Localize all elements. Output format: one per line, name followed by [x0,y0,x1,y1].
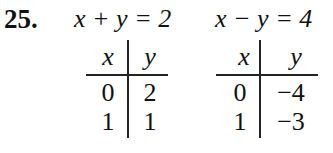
table-1-r0-x: 0 [88,78,128,108]
table-2: x y 0 −4 1 −3 [216,40,320,140]
table-2-r0-x: 0 [220,78,260,108]
table-1-r1-y: 1 [130,107,170,137]
equation-1: x + y = 2 [74,4,171,34]
table-2-r0-y: −4 [266,78,316,108]
table-1-header-x: x [88,42,128,72]
equation-2: x − y = 4 [215,4,312,34]
table-2-hline [216,74,318,76]
table-1: x y 0 2 1 1 [86,40,170,140]
problem-number: 25. [4,4,38,35]
table-2-header-x: x [224,42,264,72]
table-1-r0-y: 2 [130,78,170,108]
table-1-header-y: y [130,42,170,72]
table-2-r1-x: 1 [220,107,260,137]
table-2-r1-y: −3 [266,107,316,137]
table-2-header-y: y [276,42,316,72]
table-1-r1-x: 1 [88,107,128,137]
